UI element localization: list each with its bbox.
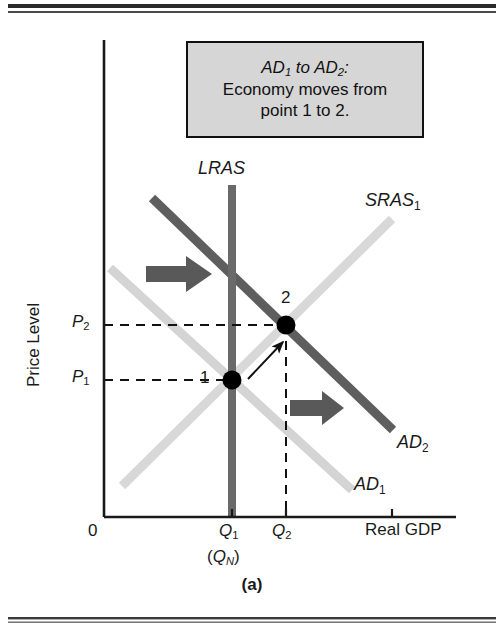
axis-label-origin: 0 <box>88 521 97 541</box>
callout-line-2: Economy moves from <box>223 79 387 101</box>
equilibrium-point-2-dot <box>277 316 296 335</box>
top-rule <box>8 4 496 13</box>
callout-to-word: to <box>291 58 314 77</box>
callout-ad1-base: AD <box>261 58 285 77</box>
q1-sub: 1 <box>232 529 238 541</box>
ad2-base: AD <box>397 432 422 452</box>
callout-line-1: AD1 to AD2: <box>261 57 348 79</box>
qn-sub: N <box>226 555 234 567</box>
callout-line-3: point 1 to 2. <box>261 100 350 122</box>
y-axis-title: Price Level <box>24 280 44 410</box>
curve-label-sras1: SRAS1 <box>365 190 421 211</box>
curve-sras1 <box>122 219 392 486</box>
callout-box: AD1 to AD2: Economy moves from point 1 t… <box>186 41 424 138</box>
sras1-sub: 1 <box>414 199 421 213</box>
p1-sub: 1 <box>83 375 89 387</box>
curve-label-ad1: AD1 <box>354 474 386 495</box>
p2-base: P <box>72 312 83 331</box>
point-label-2: 2 <box>281 288 290 308</box>
ad1-sub: 1 <box>379 483 386 497</box>
axis-label-p2: P2 <box>72 312 90 332</box>
panel-caption: (a) <box>0 575 504 595</box>
curve-label-lras: LRAS <box>198 158 245 179</box>
point-label-1: 1 <box>200 368 209 388</box>
callout-ad2-sub: 2 <box>338 66 344 78</box>
bottom-rule <box>8 617 496 623</box>
callout-ad2-base: AD <box>314 58 338 77</box>
q2-base: Q <box>272 521 285 540</box>
figure-panel-a: AD1 to AD2: Economy moves from point 1 t… <box>0 0 504 628</box>
shift-arrow-upper-icon <box>146 256 212 292</box>
axis-label-p1: P1 <box>72 367 90 387</box>
axis-label-qn: (QN) <box>207 547 240 567</box>
qn-close-paren: ) <box>234 547 240 566</box>
p2-sub: 2 <box>83 320 89 332</box>
callout-ad1-sub: 1 <box>285 66 291 78</box>
qn-base: Q <box>213 547 226 566</box>
ad2-sub: 2 <box>422 441 429 455</box>
p1-base: P <box>72 367 83 386</box>
equilibrium-point-1-dot <box>223 371 242 390</box>
curve-label-ad2: AD2 <box>397 432 429 453</box>
q1-base: Q <box>219 521 232 540</box>
ad1-base: AD <box>354 474 379 494</box>
callout-colon: : <box>344 58 349 77</box>
axis-label-q2: Q2 <box>272 521 291 541</box>
shift-arrow-lower-icon <box>290 391 344 425</box>
axis-label-q1: Q1 <box>219 521 238 541</box>
sras1-base: SRAS <box>365 190 414 210</box>
callout-text: AD1 to AD2: Economy moves from point 1 t… <box>188 43 422 136</box>
x-axis-title: Real GDP <box>365 520 442 540</box>
curve-ad2 <box>152 198 393 430</box>
q2-sub: 2 <box>285 529 291 541</box>
